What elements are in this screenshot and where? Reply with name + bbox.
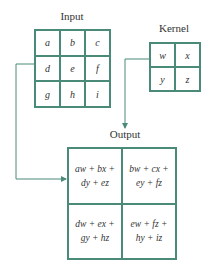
input-cell: b	[60, 30, 85, 56]
kernel-title: Kernel	[145, 22, 203, 34]
input-matrix: a b c d e f g h i	[34, 29, 111, 108]
input-cell: d	[35, 56, 60, 82]
kernel-cell: y	[150, 67, 175, 91]
input-cell: a	[35, 30, 60, 56]
output-cell: ew + fz +hy + iz	[122, 204, 176, 260]
kernel-cell: x	[175, 43, 200, 67]
input-cell: f	[85, 56, 110, 82]
input-cell: g	[35, 81, 60, 107]
output-cell: aw + bx +dy + ez	[68, 148, 122, 204]
kernel-to-output-arrow	[125, 59, 149, 128]
input-cell: i	[85, 81, 110, 107]
input-cell: e	[60, 56, 85, 82]
output-cell: dw + ex +gy + hz	[68, 204, 122, 260]
kernel-cell: z	[175, 67, 200, 91]
output-title: Output	[100, 128, 150, 140]
input-title: Input	[34, 10, 110, 22]
kernel-cell: w	[150, 43, 175, 67]
kernel-matrix: w x y z	[149, 42, 201, 92]
input-cell: c	[85, 30, 110, 56]
output-matrix: aw + bx +dy + ez bw + cx +ey + fz dw + e…	[67, 147, 177, 260]
input-cell: h	[60, 81, 85, 107]
output-cell: bw + cx +ey + fz	[122, 148, 176, 204]
